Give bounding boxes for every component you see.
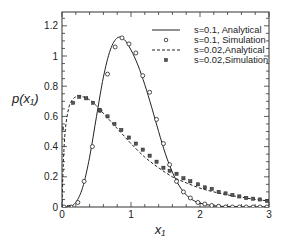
data-point (203, 186, 206, 189)
data-point (127, 136, 130, 139)
data-point (113, 45, 117, 49)
y-tick-label: 0.4 (44, 141, 58, 152)
data-point (258, 198, 261, 201)
data-point (76, 200, 80, 204)
data-point (78, 95, 81, 98)
x-tick-label: 1 (128, 209, 134, 220)
data-point (134, 51, 138, 55)
data-point (181, 190, 185, 194)
data-point (120, 128, 123, 131)
data-point (224, 205, 228, 209)
data-point (98, 109, 101, 112)
legend-item: s=0.1, Analytical (152, 25, 261, 35)
data-point (203, 202, 207, 206)
series-dashed-line (62, 96, 269, 207)
data-point (168, 163, 172, 167)
data-point (155, 117, 159, 121)
data-point (244, 205, 248, 209)
y-tick-label: 1.2 (44, 20, 58, 31)
y-tick-label: 0 (52, 202, 58, 213)
data-point (182, 177, 185, 180)
data-point (90, 145, 94, 149)
y-tick-label: 0.8 (44, 81, 58, 92)
data-point (188, 196, 192, 200)
data-point (85, 97, 88, 100)
data-point (113, 122, 116, 125)
data-point (106, 72, 110, 76)
data-point (217, 190, 220, 193)
data-point (134, 142, 137, 145)
data-point (148, 90, 152, 94)
data-point (175, 172, 178, 175)
legend-circle-icon (164, 38, 168, 42)
data-point (230, 205, 234, 209)
data-point (91, 101, 94, 104)
data-point (161, 142, 165, 146)
data-point (210, 203, 214, 207)
legend-label: s=0.1, Simulation (194, 35, 266, 45)
legend-item: s=0.02,Analytical (152, 45, 265, 55)
data-point (189, 180, 192, 183)
legend-label: s=0.02,Analytical (194, 45, 265, 55)
data-point (238, 195, 241, 198)
data-point (252, 197, 255, 200)
data-point (120, 36, 124, 40)
data-point (60, 127, 63, 130)
data-point (231, 193, 234, 196)
data-point (127, 42, 131, 46)
data-point (217, 204, 221, 208)
data-point (71, 101, 74, 104)
data-point (141, 74, 145, 78)
y-tick-label: 0.6 (44, 111, 58, 122)
x-tick-label: 2 (197, 209, 203, 220)
data-point (67, 205, 70, 208)
data-point (196, 200, 200, 204)
data-point (162, 166, 165, 169)
legend-item: s=0.02,Simulation (165, 55, 269, 65)
data-point (237, 205, 241, 209)
legend-label: s=0.02,Simulation (194, 55, 268, 65)
data-point (210, 187, 213, 190)
data-point (155, 160, 158, 163)
data-point (106, 115, 109, 118)
data-point (141, 148, 144, 151)
data-point (245, 196, 248, 199)
x-tick-label: 3 (266, 209, 272, 220)
legend: s=0.1, Analyticals=0.1, Simulations=0.02… (152, 25, 268, 65)
data-point (265, 199, 268, 202)
data-point (148, 154, 151, 157)
data-point (224, 192, 227, 195)
x-tick-label: 0 (59, 209, 65, 220)
legend-square-icon (165, 59, 168, 62)
data-point (82, 179, 86, 183)
data-point (196, 183, 199, 186)
y-tick-label: 0.2 (44, 171, 58, 182)
y-tick-label: 1 (52, 51, 58, 62)
data-point (251, 205, 255, 209)
data-point (258, 205, 262, 209)
legend-item: s=0.1, Simulation (164, 35, 265, 45)
data-point (168, 169, 171, 172)
chart-canvas: 00.20.40.60.811.2 0123 s=0.1, Analytical… (0, 0, 285, 241)
x-axis-title: x₁ (154, 222, 166, 237)
legend-label: s=0.1, Analytical (194, 25, 261, 35)
y-axis-title: p(x₁) (11, 91, 39, 106)
